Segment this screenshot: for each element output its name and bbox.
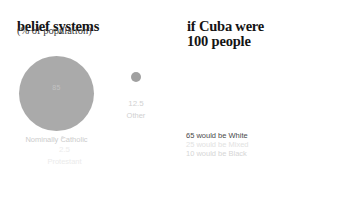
person-icon-white (301, 59, 309, 74)
person-icon-white (309, 59, 317, 74)
person-icon-mixed (301, 89, 309, 104)
bubble-chart: 85 Nominally Catholic 12.5 Other 2.5 Pro… (0, 40, 175, 197)
person-icon-white (235, 59, 243, 74)
person-icon-white (193, 44, 201, 59)
bubble-label-nominally-catholic: Nominally Catholic (19, 135, 94, 145)
person-icon-white (243, 44, 251, 59)
person-icon-white (260, 74, 268, 89)
person-icon-mixed (293, 89, 301, 104)
person-icon-black (334, 104, 342, 119)
person-icon-black (268, 104, 276, 119)
person-icon-black (326, 104, 334, 119)
legend-item-mixed: 25 would be Mixed (186, 140, 346, 149)
person-icon-white (193, 89, 201, 104)
person-icon-mixed (268, 89, 276, 104)
person-icon-white (268, 59, 276, 74)
person-icon-white (202, 89, 210, 104)
person-icon-white (285, 74, 293, 89)
person-icon-mixed (226, 104, 234, 119)
person-icon-black (301, 104, 309, 119)
person-icon-white (185, 59, 193, 74)
bubble-value-other: 12.5 (111, 99, 161, 109)
person-icon-white (226, 44, 234, 59)
person-icon-white (210, 74, 218, 89)
person-icon-white (343, 44, 351, 59)
person-icon-black (343, 104, 351, 119)
person-icon-mixed (185, 104, 193, 119)
bubble-nominally-catholic (19, 56, 94, 131)
person-icon-mixed (251, 89, 259, 104)
person-icon-white (343, 74, 351, 89)
person-icon-white (185, 44, 193, 59)
person-icon-black (293, 104, 301, 119)
person-icon-mixed (334, 89, 342, 104)
person-icon-mixed (309, 89, 317, 104)
person-icon-white (235, 44, 243, 59)
person-icon-white (218, 59, 226, 74)
belief-systems-panel: belief systems (% of population) 85 Nomi… (0, 0, 175, 197)
person-icon-white (318, 44, 326, 59)
person-icon-white (326, 74, 334, 89)
person-icon-white (235, 74, 243, 89)
bubble-label-protestant: Protestant (27, 157, 102, 167)
person-icon-white (301, 44, 309, 59)
person-icon-white (293, 74, 301, 89)
person-icon-mixed (235, 89, 243, 104)
bubble-value-protestant: 2.5 (27, 145, 102, 155)
person-icon-white (285, 44, 293, 59)
bubble-protestant (61, 136, 64, 139)
person-icon-white (326, 59, 334, 74)
bubble-label-other: Other (111, 111, 161, 121)
person-icon-black (285, 104, 293, 119)
person-icon-white (218, 89, 226, 104)
person-icon-white (334, 44, 342, 59)
legend-item-white: 65 would be White (186, 131, 346, 140)
person-icon-white (251, 44, 259, 59)
person-icon-white (268, 74, 276, 89)
bubble-value-nominally-catholic: 85 (19, 84, 94, 91)
infographic-page: belief systems (% of population) 85 Nomi… (0, 0, 351, 197)
person-icon-white (251, 59, 259, 74)
person-icon-white (334, 74, 342, 89)
person-icon-white (210, 89, 218, 104)
person-icon-white (193, 74, 201, 89)
person-icon-mixed (260, 104, 268, 119)
person-icon-white (309, 44, 317, 59)
person-icon-white (301, 74, 309, 89)
left-panel-subtitle: (% of population) (17, 25, 92, 37)
person-icon-mixed (251, 104, 259, 119)
person-icon-mixed (260, 89, 268, 104)
person-icon-white (202, 74, 210, 89)
bubble-other (131, 72, 141, 82)
person-icon-white (309, 74, 317, 89)
person-icon-mixed (226, 89, 234, 104)
person-icon-white (260, 44, 268, 59)
person-icon-white (218, 74, 226, 89)
person-icon-mixed (243, 89, 251, 104)
person-icon-white (343, 59, 351, 74)
person-icon-white (276, 74, 284, 89)
person-icon-white (268, 44, 276, 59)
person-icon-white (243, 59, 251, 74)
person-icon-mixed (243, 104, 251, 119)
person-icon-mixed (202, 104, 210, 119)
person-icon-white (276, 59, 284, 74)
person-icon-white (210, 59, 218, 74)
person-icon-white (251, 74, 259, 89)
person-icon-white (318, 59, 326, 74)
person-icon-white (202, 59, 210, 74)
person-icon-white (218, 44, 226, 59)
pictogram-legend: 65 would be White 25 would be Mixed 10 w… (186, 131, 346, 159)
person-icon-white (285, 59, 293, 74)
person-icon-white (226, 59, 234, 74)
cuba-100-people-panel: if Cuba were 100 people 65 would be Whit… (179, 0, 351, 197)
person-icon-mixed (343, 89, 351, 104)
person-icon-mixed (318, 89, 326, 104)
person-icon-black (318, 104, 326, 119)
person-icon-white (260, 59, 268, 74)
person-icon-mixed (285, 89, 293, 104)
person-icon-white (334, 59, 342, 74)
person-icon-white (202, 44, 210, 59)
person-icon-mixed (326, 89, 334, 104)
person-icon-mixed (235, 104, 243, 119)
